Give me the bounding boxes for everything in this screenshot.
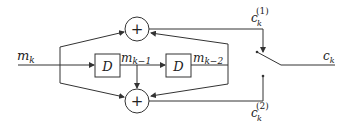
bottom-output-sub: k [257, 114, 262, 123]
input-to-bottom-adder [60, 83, 124, 97]
delay2-label: D [172, 59, 184, 74]
switch-pivot [256, 51, 259, 54]
output-label: ck [323, 49, 335, 65]
delay2-output-label: mk−2 [193, 51, 223, 66]
delay1-output-label: mk−1 [121, 51, 151, 66]
switch-contact-bottom [262, 75, 265, 78]
delay2-to-top-adder [151, 33, 228, 44]
switch-arm [257, 52, 281, 65]
encoder-diagram: + + D D mk mk−1 mk−2 c k (1) c k (2) ck [0, 0, 353, 128]
bottom-output-sup: (2) [256, 101, 269, 111]
input-label: mk [17, 48, 35, 65]
top-output-sub: k [257, 19, 262, 28]
delay1-label: D [101, 59, 113, 74]
top-output-sup: (1) [256, 6, 269, 16]
top-adder-plus: + [131, 20, 144, 38]
bottom-adder-plus: + [131, 92, 144, 110]
delay2-to-bottom-adder [151, 84, 228, 96]
input-to-top-adder [60, 32, 124, 47]
